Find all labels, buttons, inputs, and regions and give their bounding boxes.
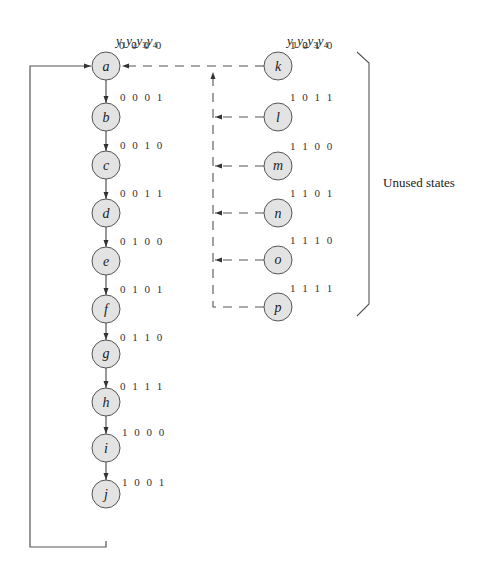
svg-text:d: d: [103, 206, 111, 221]
svg-text:1 0 1 0: 1 0 1 0: [290, 39, 334, 51]
state-k: k1 0 1 0: [264, 39, 334, 80]
state-d: d0 0 1 1: [92, 187, 164, 227]
state-n: n1 1 0 1: [264, 187, 334, 227]
svg-text:h: h: [103, 395, 110, 410]
svg-text:0 0 0 0: 0 0 0 0: [119, 39, 163, 51]
svg-text:g: g: [103, 346, 110, 361]
svg-text:1 1 1 0: 1 1 1 0: [290, 234, 334, 246]
svg-text:1 1 0 0: 1 1 0 0: [290, 140, 334, 152]
unused-states-label: Unused states: [383, 175, 455, 190]
svg-text:a: a: [103, 59, 110, 74]
used-states: a0 0 0 0 b0 0 0 1 c0 0 1 0 d0 0 1 1 e0 1…: [92, 39, 166, 508]
state-c: c0 0 1 0: [92, 139, 164, 179]
svg-text:0 0 1 0: 0 0 1 0: [120, 139, 164, 151]
state-h: h0 1 1 1: [92, 380, 164, 416]
state-g: g0 1 1 0: [92, 331, 164, 368]
svg-text:0 1 1 1: 0 1 1 1: [120, 380, 164, 392]
state-o: o1 1 1 0: [264, 234, 334, 274]
state-p: p1 1 1 1: [264, 282, 334, 321]
state-j: j1 0 0 1: [92, 476, 166, 508]
unused-states-bracket: [357, 52, 369, 316]
svg-text:0 0 0 1: 0 0 0 1: [120, 91, 164, 103]
svg-text:0 1 1 0: 0 1 1 0: [120, 331, 164, 343]
svg-text:m: m: [273, 158, 283, 173]
svg-text:i: i: [104, 441, 108, 456]
svg-text:1 0 0 0: 1 0 0 0: [122, 426, 166, 438]
state-l: l1 0 1 1: [264, 91, 334, 131]
svg-text:0 1 0 0: 0 1 0 0: [120, 235, 164, 247]
svg-text:p: p: [274, 300, 282, 315]
unused-states: k1 0 1 0 l1 0 1 1 m1 1 0 0 n1 1 0 1 o1 1…: [264, 39, 334, 321]
svg-text:l: l: [276, 110, 280, 125]
svg-text:b: b: [103, 110, 110, 125]
state-i: i1 0 0 0: [92, 426, 166, 462]
svg-text:0 0 1 1: 0 0 1 1: [120, 187, 164, 199]
svg-text:c: c: [103, 158, 110, 173]
state-diagram: y1y2y3y4 y1y2y3y4 a0 0 0 0 b0 0 0 1 c0 0…: [0, 0, 487, 564]
svg-text:1 0 0 1: 1 0 0 1: [122, 476, 166, 488]
svg-text:e: e: [103, 254, 109, 269]
svg-text:1 1 0 1: 1 1 0 1: [290, 187, 334, 199]
svg-text:1 1 1 1: 1 1 1 1: [290, 282, 334, 294]
svg-text:k: k: [275, 59, 282, 74]
state-m: m1 1 0 0: [264, 140, 334, 180]
svg-text:n: n: [275, 206, 282, 221]
state-e: e0 1 0 0: [92, 235, 164, 275]
state-f: f0 1 0 1: [92, 283, 164, 323]
svg-text:1 0 1 1: 1 0 1 1: [290, 91, 334, 103]
state-a: a0 0 0 0: [92, 39, 163, 80]
svg-text:0 1 0 1: 0 1 0 1: [120, 283, 164, 295]
svg-text:o: o: [275, 252, 282, 267]
state-b: b0 0 0 1: [92, 91, 164, 131]
